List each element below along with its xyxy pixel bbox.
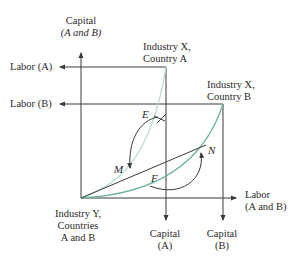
capital-ab-top-label: Capital (A and B): [58, 15, 104, 39]
label-line: Industry Y,: [48, 208, 108, 220]
factor-ratio-ray: [81, 145, 206, 198]
label-line: (B): [202, 240, 242, 252]
capital-b-bottom-label: Capital (B): [202, 228, 242, 252]
industry-y-label: Industry Y, Countries A and B: [48, 208, 108, 244]
edgeworth-diagram: [0, 0, 298, 259]
label-line: Industry X,: [207, 79, 255, 91]
label-line: Capital: [145, 228, 185, 240]
label-line: (A and B): [245, 201, 286, 213]
label-line: (A and B): [61, 27, 102, 38]
label-line: Country A: [143, 53, 191, 65]
industry-x-country-b-label: Industry X, Country B: [207, 79, 255, 103]
capital-a-bottom-label: Capital (A): [145, 228, 185, 252]
label-line: (A): [145, 240, 185, 252]
point-f-label: F: [151, 172, 158, 184]
label-line: Country B: [207, 91, 255, 103]
labor-a-label: Labor (A): [10, 61, 52, 73]
label-line: A and B: [48, 232, 108, 244]
label-line: Countries: [48, 220, 108, 232]
point-e-mark: [154, 114, 166, 123]
label-line: Capital: [202, 228, 242, 240]
label-line: Capital: [58, 15, 104, 27]
industry-x-country-a-label: Industry X, Country A: [143, 41, 191, 65]
point-m-label: M: [114, 163, 123, 175]
point-n-label: N: [208, 144, 215, 156]
label-line: Industry X,: [143, 41, 191, 53]
labor-ab-right-label: Labor (A and B): [245, 189, 286, 213]
labor-b-label: Labor (B): [10, 98, 52, 110]
label-line: Labor: [245, 189, 286, 201]
point-e-label: E: [142, 108, 149, 120]
